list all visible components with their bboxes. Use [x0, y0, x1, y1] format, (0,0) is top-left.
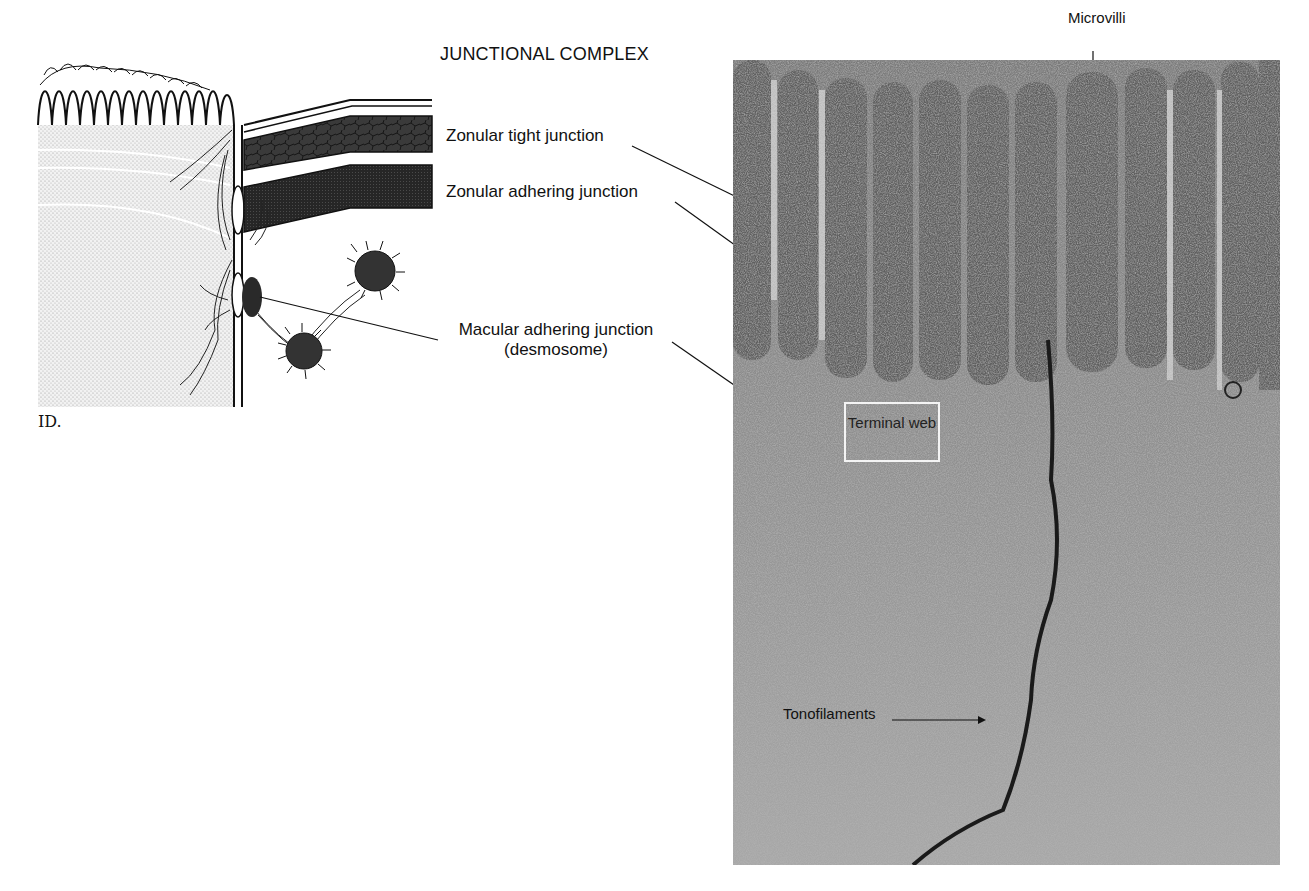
- tonofilament-plaque: [286, 333, 322, 369]
- figure-title: JUNCTIONAL COMPLEX: [440, 44, 649, 65]
- label-macular-adhering-junction: Macular adhering junction (desmosome): [440, 320, 672, 360]
- label-zonular-tight-junction: Zonular tight junction: [446, 126, 604, 146]
- label-zonular-adhering-junction: Zonular adhering junction: [446, 182, 638, 202]
- electron-micrograph: [733, 60, 1280, 865]
- label-macular-adhering-main: Macular adhering junction: [440, 320, 672, 340]
- tonofilament-plaque: [355, 251, 395, 291]
- tight-junction-layer: [244, 116, 432, 170]
- desmosome-plaque: [242, 277, 262, 317]
- microvilli-drawing: [38, 64, 234, 125]
- label-desmosome: (desmosome): [440, 340, 672, 360]
- label-microvilli: Microvilli: [1068, 9, 1126, 26]
- label-tonofilaments: Tonofilaments: [783, 705, 876, 722]
- adhering-junction-layer: [244, 165, 432, 232]
- label-terminal-web: Terminal web: [844, 402, 940, 462]
- artist-signature: ID.: [38, 412, 62, 431]
- cytoplasm-region: [38, 122, 233, 407]
